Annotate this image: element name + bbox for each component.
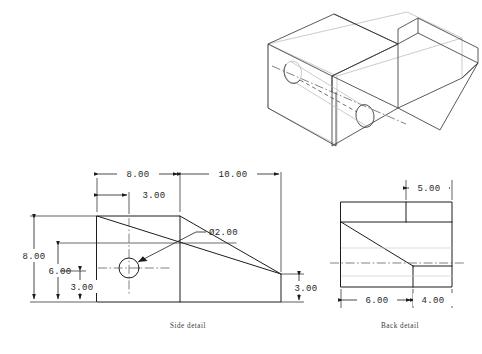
dim-side-8: 8.00 — [126, 170, 149, 180]
side-hole — [98, 218, 172, 296]
side-right-dimension: 3.00 — [281, 274, 326, 302]
side-left-dimensions: 8.00 6.00 3.00 — [14, 216, 102, 302]
back-bottom-dimensions: 6.00 4.00 — [341, 289, 453, 308]
back-detail-view: 5.00 6.00 4.00 Back detail — [330, 180, 465, 330]
dim-side-8-height: 8.00 — [22, 252, 45, 262]
back-view-label: Back detail — [381, 322, 419, 330]
side-detail-view: 8.00 10.00 3.00 8.00 6.00 — [14, 167, 326, 330]
isometric-view — [268, 12, 478, 146]
side-top-dimensions: 8.00 10.00 — [97, 167, 281, 272]
back-top-dimension: 5.00 — [406, 180, 452, 200]
dim-side-10: 10.00 — [218, 170, 247, 180]
dim-hole-diameter: Ø2.00 — [209, 228, 238, 238]
dim-side-3-height: 3.00 — [70, 283, 93, 293]
dim-side-3-offset: 3.00 — [142, 191, 165, 201]
drawing-sheet: 8.00 10.00 3.00 8.00 6.00 — [0, 0, 482, 354]
dim-side-3-right: 3.00 — [294, 284, 317, 294]
dim-back-4: 4.00 — [421, 296, 444, 306]
side-hole-offset-dimension: 3.00 — [99, 188, 175, 214]
dim-back-6: 6.00 — [365, 296, 388, 306]
side-view-label: Side detail — [170, 322, 206, 330]
technical-drawing-canvas: 8.00 10.00 3.00 8.00 6.00 — [0, 0, 482, 354]
back-profile-outline — [341, 202, 452, 287]
dim-back-5: 5.00 — [417, 184, 440, 194]
dim-side-6-height: 6.00 — [48, 267, 71, 277]
back-faint-lines — [341, 248, 452, 276]
iso-through-hole — [283, 60, 376, 129]
